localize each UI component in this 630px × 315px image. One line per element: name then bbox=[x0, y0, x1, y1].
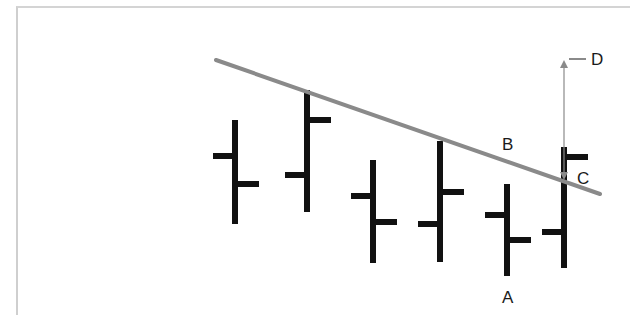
close-tick bbox=[307, 117, 331, 123]
label-d: D bbox=[591, 50, 603, 69]
ohlc-diagram: A B C D bbox=[0, 0, 630, 315]
bar-range bbox=[232, 120, 238, 224]
open-tick bbox=[351, 193, 373, 199]
ohlc-bar bbox=[542, 147, 588, 268]
open-tick bbox=[485, 212, 507, 218]
close-tick bbox=[440, 189, 464, 195]
ohlc-bar bbox=[418, 141, 464, 262]
bar-range bbox=[370, 160, 376, 263]
ohlc-bar bbox=[485, 184, 531, 276]
open-tick bbox=[213, 153, 235, 159]
ohlc-bar bbox=[213, 120, 259, 224]
open-tick bbox=[418, 221, 440, 227]
price-bars bbox=[213, 90, 588, 276]
ohlc-bar bbox=[351, 160, 397, 263]
close-tick bbox=[564, 154, 588, 160]
bar-range bbox=[437, 141, 443, 262]
bar-range bbox=[304, 90, 310, 212]
bar-range bbox=[504, 184, 510, 276]
trendline bbox=[216, 60, 600, 194]
open-tick bbox=[285, 172, 307, 178]
close-tick bbox=[235, 181, 259, 187]
ohlc-bar bbox=[285, 90, 331, 212]
label-c: C bbox=[577, 169, 589, 188]
label-a: A bbox=[502, 288, 514, 307]
close-tick bbox=[373, 219, 397, 225]
label-b: B bbox=[502, 135, 513, 154]
close-tick bbox=[507, 237, 531, 243]
open-tick bbox=[542, 229, 564, 235]
